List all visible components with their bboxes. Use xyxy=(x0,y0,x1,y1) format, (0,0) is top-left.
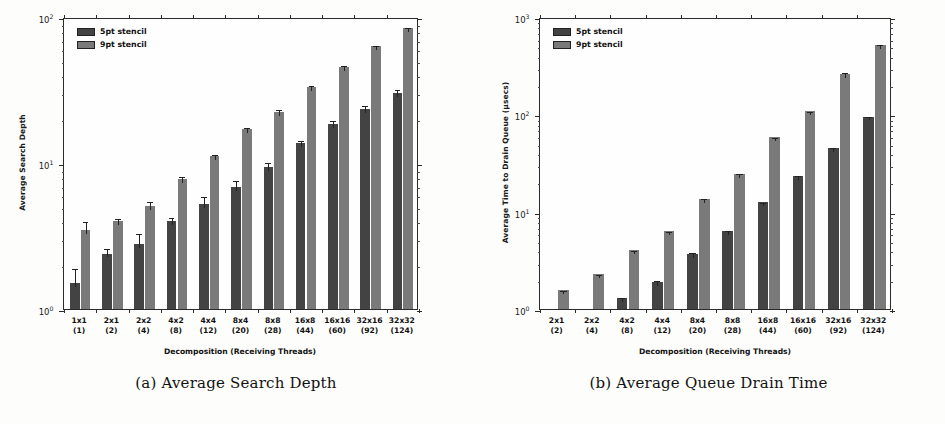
y-tick-minor xyxy=(890,58,893,59)
legend-label-9pt: 9pt stencil xyxy=(100,40,147,49)
x-tick-label-sub: (92) xyxy=(829,326,847,335)
y-tick-minor xyxy=(417,197,420,198)
y-tick-minor xyxy=(62,121,65,122)
x-tick xyxy=(646,15,647,19)
y-tick-minor xyxy=(538,138,541,139)
x-tick-label-main: 2x2 xyxy=(584,316,599,325)
x-tick xyxy=(290,309,291,313)
panel-b: Average Time to Drain Queue (μsecs) 1001… xyxy=(472,0,945,424)
x-tick-label-main: 16x8 xyxy=(295,316,316,325)
x-tick-label-main: 2x1 xyxy=(549,316,564,325)
x-tick-label-sub: (2) xyxy=(105,326,117,335)
x-tick-label-main: 4x4 xyxy=(654,316,669,325)
x-tick-label-main: 32x16 xyxy=(825,316,851,325)
x-tick xyxy=(96,15,97,19)
error-bar-cap xyxy=(298,141,304,142)
x-tick-label-sub: (28) xyxy=(724,326,742,335)
x-tick-label-sub: (92) xyxy=(361,326,379,335)
legend-label-5pt: 5pt stencil xyxy=(576,27,623,36)
error-bar xyxy=(204,197,205,208)
x-tick-label-group: 2x1(2) xyxy=(549,316,564,335)
x-tick xyxy=(225,309,226,313)
x-tick-label-main: 8x8 xyxy=(725,316,740,325)
x-tick xyxy=(129,15,130,19)
bar-5pt xyxy=(199,204,209,309)
y-tick-minor xyxy=(890,223,893,224)
error-bar-cap xyxy=(72,269,78,270)
x-tick-label-group: 1x1(1) xyxy=(71,316,86,335)
bar-5pt xyxy=(758,202,769,309)
y-tick-minor xyxy=(62,95,65,96)
x-tick-label-sub: (8) xyxy=(170,326,182,335)
error-bar xyxy=(107,249,108,257)
error-bar-cap xyxy=(631,251,637,252)
error-bar-cap xyxy=(147,202,153,203)
error-bar xyxy=(236,181,237,191)
error-bar-cap xyxy=(772,138,778,139)
legend-item-5pt: 5pt stencil xyxy=(77,26,147,37)
bar-9pt xyxy=(699,199,710,309)
y-tick-minor xyxy=(890,243,893,244)
x-tick xyxy=(822,309,823,313)
y-tick-major xyxy=(417,165,422,166)
y-tick-minor xyxy=(890,235,893,236)
error-bar-cap xyxy=(795,176,801,177)
y-tick-minor xyxy=(538,282,541,283)
error-bar xyxy=(75,269,76,288)
bar-9pt xyxy=(371,46,381,309)
legend-b: 5pt stencil 9pt stencil xyxy=(553,26,623,52)
error-bar-cap xyxy=(341,66,347,67)
y-tick-minor xyxy=(62,209,65,210)
y-tick-minor xyxy=(538,131,541,132)
y-tick-minor xyxy=(538,167,541,168)
y-tick-major xyxy=(535,214,540,215)
bar-9pt xyxy=(274,112,284,309)
x-tick-label-sub: (20) xyxy=(689,326,707,335)
bar-9pt xyxy=(145,206,155,309)
y-tick-minor xyxy=(417,241,420,242)
x-axis-title-b: Decomposition (Receiving Threads) xyxy=(639,347,791,356)
x-tick-label-main: 32x32 xyxy=(860,316,886,325)
x-tick xyxy=(751,15,752,19)
error-bar-cap xyxy=(395,90,401,91)
y-tick-minor xyxy=(890,265,893,266)
y-tick-minor xyxy=(890,28,893,29)
y-tick-minor xyxy=(890,218,893,219)
x-tick-label-main: 16x16 xyxy=(324,316,350,325)
x-axis-title-a: Decomposition (Receiving Threads) xyxy=(164,347,316,356)
y-tick-minor xyxy=(890,138,893,139)
x-tick-label-group: 32x32(124) xyxy=(389,316,415,335)
legend-item-5pt: 5pt stencil xyxy=(553,26,623,37)
y-axis-label-b: Average Time to Drain Queue (μsecs) xyxy=(501,68,510,258)
bar-5pt xyxy=(687,254,698,309)
bar-5pt xyxy=(863,117,874,309)
y-tick-minor xyxy=(538,23,541,24)
error-bar-cap xyxy=(233,181,239,182)
x-tick xyxy=(540,309,541,313)
error-bar-cap xyxy=(115,219,121,220)
error-bar-cap xyxy=(830,148,836,149)
x-tick-label-sub: (20) xyxy=(232,326,250,335)
y-tick-minor xyxy=(417,209,420,210)
bar-5pt xyxy=(652,282,663,309)
x-tick-label-sub: (12) xyxy=(653,326,671,335)
y-tick-major xyxy=(535,116,540,117)
caption-a: (a) Average Search Depth xyxy=(0,374,472,392)
x-tick xyxy=(892,309,893,313)
x-tick xyxy=(64,15,65,19)
y-tick-label: 102 xyxy=(39,13,54,25)
error-bar-cap xyxy=(701,199,707,200)
x-tick xyxy=(610,309,611,313)
x-tick-label-main: 16x16 xyxy=(790,316,816,325)
y-tick-minor xyxy=(890,48,893,49)
error-bar-cap xyxy=(596,275,602,276)
y-tick-label: 102 xyxy=(515,110,530,122)
y-tick-minor xyxy=(62,42,65,43)
y-tick-minor xyxy=(890,167,893,168)
bar-9pt xyxy=(113,221,123,309)
x-tick xyxy=(681,15,682,19)
x-tick-label-group: 8x4(20) xyxy=(232,316,250,335)
error-bar xyxy=(139,234,140,247)
bar-9pt xyxy=(734,174,745,309)
error-bar-cap xyxy=(265,163,271,164)
